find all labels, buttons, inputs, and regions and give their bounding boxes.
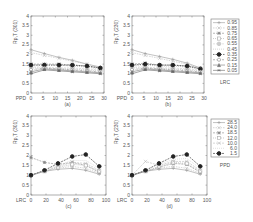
x-tick-label: 0 [131, 95, 134, 101]
y-tick-label: 3.5 [123, 122, 130, 128]
series-1.5 [29, 153, 101, 177]
chart-panel-c: 00.511.522.533.54020406080100LRC(c)Rp,T … [12, 113, 110, 209]
y-tick-label: 1 [26, 70, 29, 76]
x-tick-label: 40 [159, 197, 165, 203]
y-tick-label: 4 [127, 113, 130, 119]
x-tick-label: 15 [165, 95, 171, 101]
x-tick-label: 40 [58, 197, 64, 203]
y-tick-label: 1 [127, 70, 130, 76]
x-axis-label: PPD [117, 95, 128, 101]
x-axis-label: PPD [16, 95, 27, 101]
chart-panel-d: 00.511.522.533.54020406080100LRC(d)Rp,T … [113, 113, 211, 209]
y-tick-label: 3 [26, 132, 29, 138]
plot-frame [31, 116, 106, 195]
y-tick-label: 3.5 [123, 22, 130, 28]
y-tick-label: 4 [127, 13, 130, 19]
x-tick-label: 5 [143, 95, 146, 101]
y-tick-label: 2 [26, 152, 29, 158]
y-tick-label: 0.5 [123, 80, 130, 86]
legend-label: 1.5 [230, 150, 237, 156]
x-tick-label: 25 [189, 95, 195, 101]
y-axis-label: Rp,T (301) [12, 20, 18, 44]
plot-frame [132, 16, 204, 93]
x-axis-label: LRC [117, 197, 127, 203]
legend-label: 0.05 [227, 67, 237, 73]
y-tick-label: 2.5 [22, 41, 29, 47]
y-tick-label: 1.5 [22, 61, 29, 67]
y-tick-label: 1.5 [123, 162, 130, 168]
y-tick-label: 0.5 [123, 182, 130, 188]
x-tick-label: 15 [65, 95, 71, 101]
y-tick-label: 3 [127, 32, 130, 38]
series-10.0 [130, 160, 201, 177]
x-tick-label: 100 [203, 197, 212, 203]
y-tick-label: 1.5 [123, 61, 130, 67]
y-tick-label: 2.5 [123, 41, 130, 47]
x-axis-label: LRC [16, 197, 26, 203]
y-axis-label: Rp,T (230) [113, 20, 119, 44]
y-tick-label: 1.5 [22, 162, 29, 168]
y-tick-label: 2 [127, 152, 130, 158]
x-tick-label: 0 [30, 197, 33, 203]
x-tick-label: 60 [73, 197, 79, 203]
x-tick-label: 30 [101, 95, 107, 101]
x-tick-label: 20 [177, 95, 183, 101]
x-tick-label: 10 [153, 95, 159, 101]
x-tick-label: 30 [201, 95, 207, 101]
series-24.0 [29, 165, 100, 177]
y-tick-label: 3 [26, 32, 29, 38]
series-24.0 [130, 165, 201, 177]
panel-caption: (b) [165, 101, 171, 107]
y-tick-label: 2.5 [123, 142, 130, 148]
x-tick-label: 80 [189, 197, 195, 203]
y-tick-label: 4 [26, 113, 29, 119]
x-tick-label: 20 [77, 95, 83, 101]
x-tick-label: 60 [174, 197, 180, 203]
plot-frame [132, 116, 207, 195]
y-tick-label: 2 [127, 51, 130, 57]
x-tick-label: 100 [102, 197, 111, 203]
y-tick-label: 4 [26, 13, 29, 19]
legend-lrc: 0.950.850.750.650.550.450.350.250.150.05… [211, 19, 239, 85]
chart-panel-a: 00.511.522.533.54051015202530PPD(a)Rp,T … [12, 13, 107, 107]
y-tick-label: 3.5 [22, 22, 29, 28]
panel-caption: (a) [64, 101, 70, 107]
legend-ppd: 28.524.018.512.010.06.01.5PPD [211, 119, 239, 168]
x-tick-label: 20 [144, 197, 150, 203]
figure: 00.511.522.533.54051015202530PPD(a)Rp,T … [0, 0, 253, 222]
series-6.0 [132, 158, 200, 175]
series-6.0 [31, 160, 99, 175]
y-tick-label: 3 [127, 132, 130, 138]
y-tick-label: 2 [26, 51, 29, 57]
series-0.95 [130, 48, 202, 69]
x-tick-label: 5 [42, 95, 45, 101]
panel-caption: (c) [66, 203, 72, 209]
y-tick-label: 0.5 [22, 182, 29, 188]
y-tick-label: 3.5 [22, 122, 29, 128]
legend-title: PPD [220, 162, 231, 168]
x-tick-label: 20 [43, 197, 49, 203]
series-0.85 [130, 51, 202, 71]
x-tick-label: 0 [131, 197, 134, 203]
y-axis-label: Rp,T (301) [12, 120, 18, 144]
legend-title: LRC [220, 79, 230, 85]
x-tick-label: 10 [53, 95, 59, 101]
chart-panel-b: 00.511.522.533.54051015202530PPD(b)Rp,T … [113, 13, 207, 107]
y-tick-label: 0.5 [22, 80, 29, 86]
x-tick-label: 25 [89, 95, 95, 101]
x-tick-label: 80 [88, 197, 94, 203]
plot-frame [31, 16, 104, 93]
x-tick-label: 0 [30, 95, 33, 101]
series-1.5 [130, 153, 202, 177]
y-axis-label: Rp,T (230) [113, 120, 119, 144]
panel-caption: (d) [166, 203, 172, 209]
y-tick-label: 2.5 [22, 142, 29, 148]
